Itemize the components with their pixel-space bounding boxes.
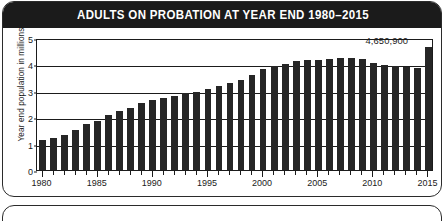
bar xyxy=(326,59,333,170)
x-tick-major xyxy=(97,171,98,177)
x-tick-major xyxy=(152,171,153,177)
y-tick-label: 0 xyxy=(28,167,33,177)
x-tick-label: 1995 xyxy=(197,178,217,188)
x-tick-major xyxy=(262,171,263,177)
x-tick-minor xyxy=(405,171,406,175)
x-tick-minor xyxy=(229,171,230,175)
bar xyxy=(282,64,289,170)
x-tick-minor xyxy=(163,171,164,175)
x-tick-minor xyxy=(240,171,241,175)
chart-area: Year end population in millions 012345 1… xyxy=(3,28,442,196)
bar xyxy=(425,47,432,170)
y-tick-label: 1 xyxy=(28,141,33,151)
bar xyxy=(171,96,178,170)
bar xyxy=(359,59,366,170)
x-tick-minor xyxy=(383,171,384,175)
x-tick-major xyxy=(207,171,208,177)
bar xyxy=(205,89,212,170)
y-axis-label: Year end population in millions xyxy=(17,20,26,150)
bar xyxy=(392,66,399,170)
chart-title-bar: ADULTS ON PROBATION AT YEAR END 1980–201… xyxy=(3,2,442,28)
x-tick-minor xyxy=(361,171,362,175)
x-tick-minor xyxy=(174,171,175,175)
x-tick-minor xyxy=(295,171,296,175)
bar xyxy=(127,108,134,170)
bar xyxy=(138,103,145,170)
bar xyxy=(238,80,245,170)
y-tick-label: 5 xyxy=(28,35,33,45)
x-tick-minor xyxy=(339,171,340,175)
y-tick-label: 3 xyxy=(28,88,33,98)
bar xyxy=(193,92,200,170)
bar xyxy=(403,67,410,170)
x-tick-minor xyxy=(328,171,329,175)
bar xyxy=(72,130,79,170)
bar xyxy=(116,111,123,170)
x-tick-minor xyxy=(119,171,120,175)
bar xyxy=(348,58,355,170)
x-tick-label: 2005 xyxy=(307,178,327,188)
plot-area: 012345 xyxy=(36,39,433,171)
bar xyxy=(337,58,344,170)
x-tick-minor xyxy=(64,171,65,175)
bar xyxy=(182,93,189,170)
x-tick-label: 1990 xyxy=(142,178,162,188)
x-tick-minor xyxy=(196,171,197,175)
y-tick-label: 2 xyxy=(28,114,33,124)
x-tick-minor xyxy=(218,171,219,175)
x-tick-minor xyxy=(306,171,307,175)
bar xyxy=(414,68,421,170)
bar xyxy=(293,61,300,170)
bar xyxy=(304,60,311,170)
bar xyxy=(105,115,112,170)
x-tick-minor xyxy=(130,171,131,175)
bar-series xyxy=(37,40,432,170)
y-tick-label: 4 xyxy=(28,61,33,71)
chart-card: ADULTS ON PROBATION AT YEAR END 1980–201… xyxy=(2,1,442,197)
x-tick-minor xyxy=(273,171,274,175)
x-tick-minor xyxy=(141,171,142,175)
bar xyxy=(216,86,223,170)
bar xyxy=(271,66,278,170)
chart-page: ADULTS ON PROBATION AT YEAR END 1980–201… xyxy=(0,0,448,221)
bar xyxy=(370,63,377,170)
x-tick-minor xyxy=(53,171,54,175)
value-annotation: 4,650,900 xyxy=(365,35,408,46)
x-tick-major xyxy=(372,171,373,177)
x-tick-major xyxy=(427,171,428,177)
next-card-partial xyxy=(2,205,442,221)
x-tick-label: 1985 xyxy=(87,178,107,188)
bar xyxy=(160,98,167,170)
page-title: ADULTS ON PROBATION AT YEAR END 1980–201… xyxy=(77,8,369,22)
x-tick-minor xyxy=(75,171,76,175)
x-tick-label: 1980 xyxy=(31,178,51,188)
x-tick-minor xyxy=(185,171,186,175)
x-tick-minor xyxy=(284,171,285,175)
x-tick-label: 2000 xyxy=(252,178,272,188)
bar xyxy=(50,138,57,170)
x-tick-minor xyxy=(350,171,351,175)
x-tick-label: 2015 xyxy=(417,178,437,188)
x-tick-minor xyxy=(108,171,109,175)
x-tick-minor xyxy=(416,171,417,175)
bar xyxy=(149,100,156,170)
x-tick-minor xyxy=(86,171,87,175)
bar xyxy=(381,65,388,170)
bar xyxy=(39,140,46,170)
x-axis: 19801985199019952000200520102015 xyxy=(36,171,433,196)
bar xyxy=(249,75,256,170)
bar xyxy=(227,83,234,170)
bar xyxy=(260,69,267,170)
x-tick-minor xyxy=(251,171,252,175)
bar xyxy=(315,60,322,170)
bar xyxy=(61,135,68,170)
x-tick-major xyxy=(317,171,318,177)
bar xyxy=(83,124,90,170)
x-tick-minor xyxy=(394,171,395,175)
x-tick-major xyxy=(42,171,43,177)
x-tick-label: 2010 xyxy=(362,178,382,188)
bar xyxy=(94,121,101,170)
